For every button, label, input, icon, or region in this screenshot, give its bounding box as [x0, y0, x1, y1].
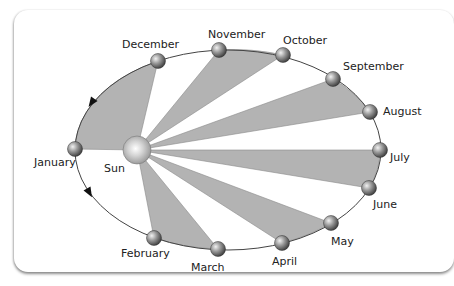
label-may: May — [331, 235, 354, 248]
sun — [123, 136, 151, 164]
label-october: October — [283, 34, 327, 47]
label-november: November — [208, 28, 266, 41]
planet-april — [275, 236, 290, 251]
planet-march — [211, 242, 226, 257]
planet-january — [68, 142, 83, 157]
label-july: July — [389, 151, 410, 164]
planet-july — [373, 143, 388, 158]
planet-september — [326, 72, 341, 87]
sun-icon — [123, 136, 151, 164]
label-march: March — [191, 261, 225, 274]
planet-october — [276, 48, 291, 63]
area-wedge-december-january — [75, 61, 158, 150]
label-december: December — [122, 38, 180, 51]
planet-november — [212, 43, 227, 58]
label-sun: Sun — [104, 162, 125, 175]
label-june: June — [372, 198, 397, 211]
planet-august — [363, 105, 378, 120]
label-february: February — [121, 247, 170, 260]
label-april: April — [272, 255, 297, 268]
label-september: September — [343, 60, 404, 73]
planet-february — [147, 231, 162, 246]
planet-june — [362, 181, 377, 196]
planet-december — [151, 54, 166, 69]
planet-may — [324, 216, 339, 231]
label-august: August — [383, 105, 422, 118]
label-january: January — [33, 156, 76, 169]
